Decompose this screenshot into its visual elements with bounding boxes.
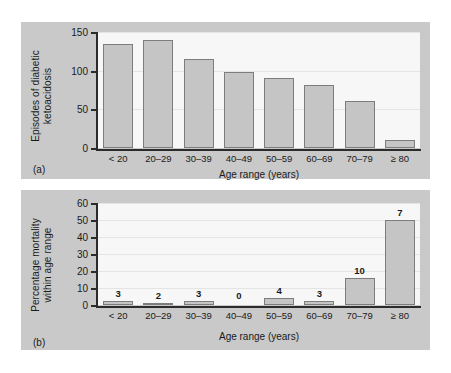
y-tick-mark (91, 71, 96, 73)
y-tick-label: 150 (71, 27, 88, 38)
x-tick-label: 40–49 (226, 153, 252, 164)
bar-value-label: 2 (156, 290, 161, 301)
y-tick-label: 0 (82, 300, 88, 311)
bar (103, 44, 133, 148)
chart-b-x-axis-line (96, 306, 421, 308)
chart-a-x-axis-line (96, 149, 421, 151)
x-tick-label: 60–69 (306, 310, 332, 321)
y-tick-label: 60 (77, 198, 88, 209)
y-tick-mark (91, 32, 96, 34)
y-tick-label: 30 (77, 249, 88, 260)
panel-b-caption: (b) (33, 337, 45, 348)
y-tick-label: 0 (82, 143, 88, 154)
y-tick-mark (91, 109, 96, 111)
chart-b-y-axis-title-line1: Percentage mortality (30, 218, 41, 312)
chart-b-plot-area: 323043107 (98, 203, 420, 305)
chart-a-x-axis-title: Age range (years) (98, 169, 420, 180)
bar (224, 72, 254, 148)
x-tick-label: 60–69 (306, 153, 332, 164)
x-tick-label: 50–59 (266, 153, 292, 164)
y-tick-mark (91, 220, 96, 222)
bar (143, 303, 173, 305)
figure-container: Episodes of diabetic ketoacidosis 050100… (0, 0, 451, 373)
bar (385, 140, 415, 148)
bar (264, 298, 294, 305)
chart-a-bars (98, 32, 420, 148)
chart-b-y-axis-title-line2: within age range (42, 228, 53, 303)
chart-b-x-axis-title: Age range (years) (98, 331, 420, 342)
chart-a-y-axis-title-line1: Episodes of diabetic (30, 50, 41, 142)
x-tick-label: 40–49 (226, 310, 252, 321)
bar (345, 278, 375, 305)
x-tick-label: 70–79 (346, 310, 372, 321)
chart-b-bars: 323043107 (98, 203, 420, 305)
bar (345, 101, 375, 148)
bar-value-label: 10 (354, 265, 365, 276)
y-tick-label: 20 (77, 266, 88, 277)
bar (385, 220, 415, 305)
bar-value-label: 3 (196, 288, 201, 299)
bar (304, 301, 334, 305)
x-tick-label: 70–79 (346, 153, 372, 164)
bar (304, 85, 334, 148)
bar (264, 78, 294, 148)
x-tick-label: ≥ 80 (391, 310, 409, 321)
x-tick-label: 20–29 (145, 153, 171, 164)
x-tick-label: 50–59 (266, 310, 292, 321)
y-tick-mark (91, 305, 96, 307)
x-tick-label: 30–39 (185, 310, 211, 321)
bar (103, 301, 133, 305)
x-tick-label: < 20 (109, 153, 128, 164)
x-tick-label: 20–29 (145, 310, 171, 321)
y-tick-mark (91, 203, 96, 205)
bar-value-label: 0 (236, 290, 241, 301)
chart-a-plot-area (98, 32, 420, 148)
bar-value-label: 3 (115, 288, 120, 299)
y-tick-mark (91, 254, 96, 256)
bar (184, 301, 214, 305)
chart-a-x-tick-labels: < 2020–2930–3940–4950–5960–6970–79≥ 80 (98, 153, 420, 167)
x-tick-label: 30–39 (185, 153, 211, 164)
x-tick-label: < 20 (109, 310, 128, 321)
y-tick-label: 40 (77, 232, 88, 243)
chart-b-y-axis-title: Percentage mortality within age range (30, 192, 54, 338)
x-tick-label: ≥ 80 (391, 153, 409, 164)
y-tick-mark (91, 237, 96, 239)
bar (143, 40, 173, 148)
y-tick-label: 100 (71, 65, 88, 76)
y-tick-label: 50 (77, 215, 88, 226)
bar-value-label: 7 (397, 207, 402, 218)
y-tick-mark (91, 288, 96, 290)
chart-b-x-tick-labels: < 2020–2930–3940–4950–5960–6970–79≥ 80 (98, 310, 420, 324)
panel-a-caption: (a) (33, 164, 45, 175)
bar (184, 59, 214, 148)
y-tick-mark (91, 148, 96, 150)
chart-a-y-axis-title: Episodes of diabetic ketoacidosis (30, 26, 54, 166)
bar-value-label: 4 (276, 285, 281, 296)
bar-value-label: 3 (317, 288, 322, 299)
chart-a-y-axis-title-line2: ketoacidosis (42, 68, 53, 124)
y-tick-label: 10 (77, 283, 88, 294)
y-tick-label: 50 (77, 104, 88, 115)
y-tick-mark (91, 271, 96, 273)
